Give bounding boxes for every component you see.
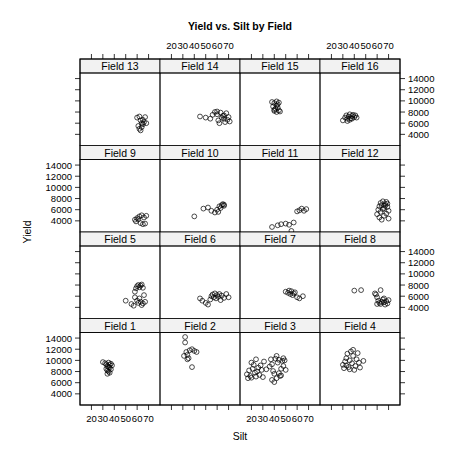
data-point [271,369,276,374]
data-point [386,216,391,221]
panel-strip-label: Field 12 [341,147,379,159]
y-tick-label: 12000 [46,171,72,182]
y-tick-label: 8000 [51,366,72,377]
data-point [359,288,364,293]
data-point [378,288,383,293]
panel-strip-label: Field 2 [184,320,216,332]
x-tick-label: 70 [303,413,314,424]
panel-field-7: Field 7 [240,232,320,319]
y-tick-label: 12000 [408,257,434,268]
y-tick-label: 14000 [408,73,434,84]
panel-strip-label: Field 1 [104,320,136,332]
data-point [133,289,138,294]
data-point [224,292,229,297]
panel-strip-label: Field 4 [344,320,376,332]
x-tick-label: 50 [120,413,131,424]
x-tick-label: 30 [258,413,269,424]
data-point [352,288,357,293]
x-tick-label: 60 [292,413,303,424]
panel-frame [320,333,400,406]
panel-strip-label: Field 9 [104,147,136,159]
x-tick-label: 70 [223,40,234,51]
y-tick-label: 8000 [408,280,429,291]
panel-field-12: Field 12 [320,146,400,233]
data-point [279,222,284,227]
data-point [136,124,141,129]
panel-frame [80,246,160,319]
x-tick-label: 20 [86,413,97,424]
panel-strip-label: Field 13 [101,60,139,72]
y-tick-label: 10000 [408,268,434,279]
panel-field-10: Field 10 [160,146,240,233]
panel-strip-label: Field 10 [181,147,219,159]
panel-field-15: Field 15 [240,59,320,146]
data-point [278,109,283,114]
panel-frame [240,246,320,319]
panel-field-9: Field 9 [80,146,160,233]
panel-field-2: Field 2 [160,319,240,406]
y-tick-label: 10000 [408,95,434,106]
x-tick-label: 50 [280,413,291,424]
data-point [357,360,362,365]
panel-field-11: Field 11 [240,146,320,234]
panel-strip-label: Field 5 [104,233,136,245]
data-point [249,375,254,380]
y-tick-label: 8000 [51,193,72,204]
data-point [142,293,147,298]
data-point [361,359,366,364]
y-tick-label: 6000 [51,204,72,215]
data-point [203,115,208,120]
panel-frame [240,160,320,233]
x-tick-label: 20 [326,40,337,51]
data-point [345,351,350,356]
panel-field-5: Field 5 [80,232,160,319]
panel-field-4: Field 4 [320,319,400,406]
y-tick-label: 12000 [46,344,72,355]
x-tick-label: 30 [338,40,349,51]
x-tick-label: 50 [360,40,371,51]
panel-field-16: Field 16 [320,59,400,146]
panel-field-14: Field 14 [160,59,240,146]
lattice-scatter-chart: Yield vs. Silt by Field Field 13Field 14… [0,0,460,464]
panel-grid: Field 13Field 14Field 15Field 16Field 9F… [80,59,400,405]
panel-frame [80,73,160,146]
data-point [375,212,380,217]
panel-frame [80,160,160,233]
x-tick-label: 60 [132,413,143,424]
data-point [208,297,213,302]
y-tick-label: 4000 [408,129,429,140]
data-point [218,298,223,303]
data-point [301,294,306,299]
data-point [133,295,138,300]
data-point [185,357,190,362]
x-tick-label: 70 [383,40,394,51]
panel-field-8: Field 8 [320,232,400,319]
data-point [275,223,280,228]
x-tick-label: 30 [98,413,109,424]
data-point [190,365,195,370]
x-tick-label: 30 [178,40,189,51]
panel-frame [160,333,240,406]
data-point [254,357,259,362]
panel-strip-label: Field 16 [341,60,379,72]
panel-strip-label: Field 7 [264,233,296,245]
data-point [226,295,231,300]
data-point [198,114,203,119]
data-point [272,371,277,376]
y-tick-label: 4000 [51,215,72,226]
data-point [344,356,349,361]
data-point [192,214,197,219]
x-tick-label: 60 [212,40,223,51]
x-axis-label: Silt [233,430,248,442]
panel-strip-label: Field 15 [261,60,299,72]
panel-field-6: Field 6 [160,232,240,319]
data-point [201,206,206,211]
y-tick-label: 8000 [408,107,429,118]
x-tick-label: 40 [189,40,200,51]
x-tick-label: 50 [200,40,211,51]
y-tick-label: 4000 [51,388,72,399]
chart-title: Yield vs. Silt by Field [188,20,292,32]
y-tick-label: 4000 [408,302,429,313]
data-point [354,357,359,362]
y-tick-label: 14000 [46,333,72,344]
